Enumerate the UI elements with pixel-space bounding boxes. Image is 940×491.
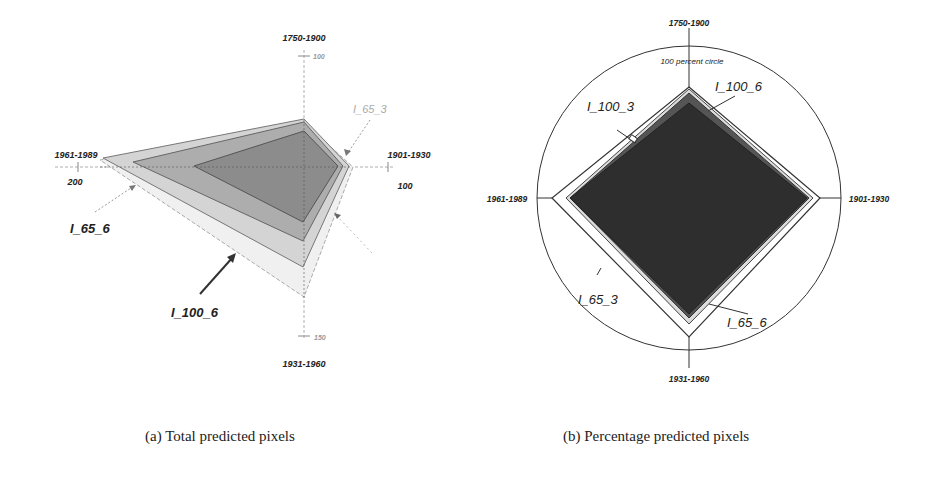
- tick-label-left: 200: [66, 177, 82, 187]
- tick-label-right: 100: [397, 181, 412, 191]
- circle-label: 100 percent circle: [660, 57, 724, 66]
- annotation-i65-6: I_65_6: [70, 221, 111, 236]
- annotation-i65-3-b: I_65_3: [578, 292, 619, 307]
- tick-label-top: 100: [313, 53, 325, 60]
- axis-label-top-b: 1750-1900: [669, 18, 710, 28]
- axis-label-left: 1961-1989: [54, 150, 97, 160]
- annotation-i100-3-b: I_100_3: [587, 99, 635, 114]
- caption-a: (a) Total predicted pixels: [145, 428, 295, 445]
- axis-label-bottom-b: 1931-1960: [669, 374, 710, 384]
- annotation-i65-3: I_65_3: [353, 103, 388, 115]
- radar-chart-percentage: 1750-1900 100 percent circle 1901-1930 1…: [470, 0, 940, 420]
- annotation-i100-6: I_100_6: [171, 305, 219, 320]
- axis-label-top: 1750-1900: [282, 33, 325, 43]
- radar-chart-total: 1750-1900 100 1901-1930 100 1961-1989 20…: [0, 0, 470, 420]
- axis-label-right: 1901-1930: [387, 150, 430, 160]
- tick-label-bottom: 150: [314, 334, 326, 341]
- caption-b: (b) Percentage predicted pixels: [563, 428, 749, 445]
- axis-label-right-b: 1901-1930: [849, 194, 890, 204]
- axis-label-left-b: 1961-1989: [487, 194, 528, 204]
- series-i65-6-polygon-b: [570, 103, 807, 314]
- axis-label-bottom: 1931-1960: [282, 359, 325, 369]
- annotation-i100-6-b: I_100_6: [715, 79, 763, 94]
- annotation-i65-6-b: I_65_6: [727, 315, 768, 330]
